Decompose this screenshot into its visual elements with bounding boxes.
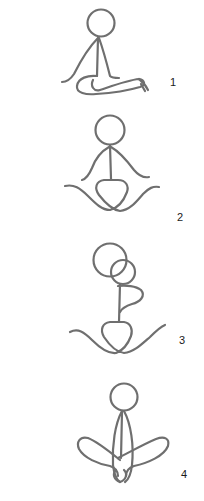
figure-3-label: 3 bbox=[179, 335, 185, 346]
figure-1-right-arm bbox=[99, 38, 119, 78]
figure-2-torso bbox=[110, 145, 111, 179]
figure-2-label: 2 bbox=[177, 212, 183, 223]
figure-4 bbox=[78, 384, 168, 483]
figure-4-head bbox=[111, 384, 138, 411]
figure-2-legs bbox=[65, 180, 159, 211]
figure-2-right-arm bbox=[111, 147, 149, 177]
figure-2-left-arm bbox=[82, 147, 109, 180]
figure-3-arm-loop bbox=[118, 286, 143, 312]
figure-1-legs bbox=[77, 76, 144, 94]
figure-2-head bbox=[96, 116, 125, 145]
figure-4-label: 4 bbox=[181, 469, 187, 480]
figure-2 bbox=[65, 116, 159, 212]
figure-1 bbox=[62, 10, 148, 95]
figure-1-label: 1 bbox=[170, 77, 176, 88]
figure-3-head bbox=[111, 260, 135, 284]
figure-1-head bbox=[88, 10, 115, 37]
figure-3-legs bbox=[70, 322, 165, 353]
diagram-stage: 1 2 3 4 bbox=[0, 0, 204, 501]
figure-3-torso bbox=[119, 284, 120, 322]
figure-4-torso bbox=[121, 412, 122, 458]
figure-3 bbox=[70, 244, 165, 354]
figure-1-torso bbox=[97, 38, 98, 76]
